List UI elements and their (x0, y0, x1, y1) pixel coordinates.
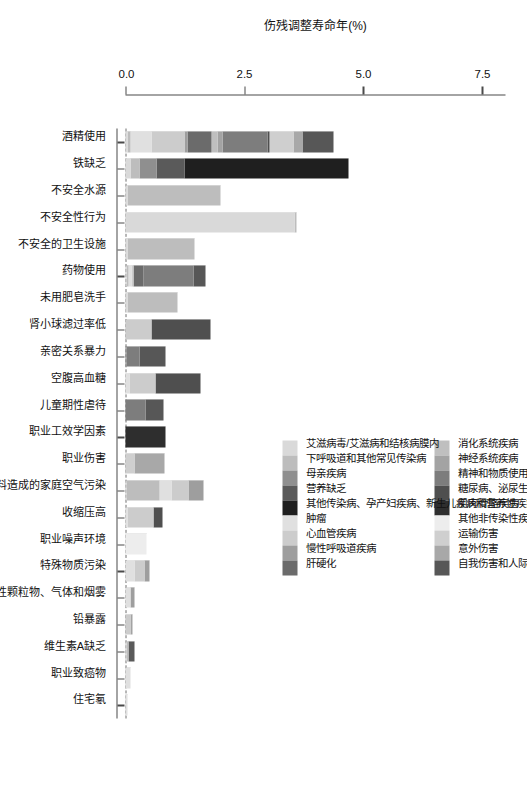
stacked-bar[interactable] (125, 238, 194, 258)
bar-segment[interactable] (125, 131, 127, 151)
bar-segment[interactable] (130, 131, 151, 151)
bar-segment[interactable] (125, 185, 127, 205)
stacked-bar[interactable] (125, 587, 135, 607)
bar-segment[interactable] (144, 560, 149, 580)
bar-segment[interactable] (125, 212, 294, 232)
legend-item[interactable]: 肝硬化 (282, 560, 297, 575)
stacked-bar[interactable] (125, 694, 127, 714)
stacked-bar[interactable] (125, 480, 203, 500)
bar-segment[interactable] (151, 131, 184, 151)
legend-item[interactable]: 母亲疾病 (282, 470, 297, 485)
legend-item[interactable]: 心血管疾病 (282, 530, 297, 545)
bar-segment[interactable] (269, 131, 293, 151)
legend-item[interactable]: 其他传染病、孕产妇疾病、新生儿疾病和营养性疾病 (282, 500, 297, 515)
stacked-bar[interactable] (125, 185, 220, 205)
bar-segment[interactable] (129, 373, 155, 393)
bar-segment[interactable] (125, 265, 126, 285)
bar-segment[interactable] (127, 238, 194, 258)
bar-segment[interactable] (159, 480, 171, 500)
bar-group[interactable]: 职业致癌物 (125, 664, 505, 691)
legend-item[interactable]: 精神和物质使用障碍 (434, 470, 449, 485)
bar-segment[interactable] (135, 453, 164, 473)
legend-item[interactable]: 意外伤害 (434, 545, 449, 560)
bar-segment[interactable] (125, 158, 130, 178)
stacked-bar[interactable] (125, 373, 200, 393)
stacked-bar[interactable] (125, 641, 134, 661)
bar-group[interactable]: 不安全的卫生设施 (125, 235, 505, 262)
stacked-bar[interactable] (125, 265, 205, 285)
bar-segment[interactable] (125, 426, 165, 446)
legend-item[interactable]: 神经系统疾病 (434, 455, 449, 470)
legend-item[interactable]: 肿瘤 (282, 515, 297, 530)
bar-segment[interactable] (155, 373, 200, 393)
bar-segment[interactable] (125, 533, 146, 553)
bar-segment[interactable] (128, 641, 134, 661)
bar-segment[interactable] (125, 319, 151, 339)
legend-item[interactable]: 运输伤害 (434, 530, 449, 545)
bar-segment[interactable] (125, 587, 130, 607)
stacked-bar[interactable] (125, 131, 333, 151)
bar-segment[interactable] (184, 158, 348, 178)
stacked-bar[interactable] (125, 507, 162, 527)
bar-segment[interactable] (144, 265, 194, 285)
legend-item[interactable]: 营养缺乏 (282, 485, 297, 500)
bar-segment[interactable] (127, 507, 153, 527)
bar-segment[interactable] (188, 480, 203, 500)
bar-segment[interactable] (130, 587, 135, 607)
bar-group[interactable]: 不安全水源 (125, 182, 505, 209)
bar-group[interactable]: 酒精使用 (125, 128, 505, 155)
bar-segment[interactable] (302, 131, 333, 151)
bar-segment[interactable] (125, 399, 145, 419)
bar-segment[interactable] (125, 480, 126, 500)
legend-item[interactable]: 其他非传染性疾病 (434, 515, 449, 530)
stacked-bar[interactable] (125, 292, 177, 312)
bar-group[interactable]: 维生素A缺乏 (125, 637, 505, 664)
bar-segment[interactable] (125, 641, 126, 661)
stacked-bar[interactable] (125, 158, 348, 178)
bar-group[interactable]: 铅暴露 (125, 611, 505, 638)
stacked-bar[interactable] (125, 346, 165, 366)
bar-group[interactable]: 亲密关系暴力 (125, 343, 505, 370)
bar-segment[interactable] (127, 185, 220, 205)
stacked-bar[interactable] (125, 560, 149, 580)
bar-segment[interactable] (125, 453, 135, 473)
bar-segment[interactable] (125, 346, 126, 366)
bar-group[interactable]: 住宅氡 (125, 691, 505, 718)
bar-segment[interactable] (293, 131, 302, 151)
bar-segment[interactable] (156, 158, 185, 178)
bar-group[interactable]: 儿童期性虐待 (125, 396, 505, 423)
bar-segment[interactable] (127, 292, 177, 312)
legend-item[interactable]: 艾滋病毒/艾滋病和结核病膜内 (282, 440, 297, 455)
bar-segment[interactable] (154, 507, 163, 527)
bar-segment[interactable] (126, 346, 139, 366)
bar-segment[interactable] (193, 265, 205, 285)
bar-segment[interactable] (125, 560, 134, 580)
bar-group[interactable]: 未用肥皂洗手 (125, 289, 505, 316)
bar-group[interactable]: 肾小球滤过率低 (125, 316, 505, 343)
bar-segment[interactable] (125, 507, 127, 527)
stacked-bar[interactable] (125, 614, 132, 634)
legend-item[interactable]: 慢性呼吸道疾病 (282, 545, 297, 560)
stacked-bar[interactable] (125, 319, 211, 339)
bar-group[interactable]: 不安全性行为 (125, 208, 505, 235)
bar-segment[interactable] (133, 265, 143, 285)
legend-item[interactable]: 自我伤害和人际暴力 (434, 560, 449, 575)
stacked-bar[interactable] (125, 533, 146, 553)
bar-segment[interactable] (130, 158, 140, 178)
bar-segment[interactable] (187, 131, 212, 151)
bar-segment[interactable] (125, 238, 127, 258)
bar-group[interactable]: 药物使用 (125, 262, 505, 289)
bar-segment[interactable] (126, 480, 159, 500)
bar-segment[interactable] (145, 399, 163, 419)
legend-item[interactable]: 下呼吸道和其他常见传染病 (282, 455, 297, 470)
bar-segment[interactable] (151, 319, 210, 339)
bar-segment[interactable] (125, 292, 127, 312)
bar-segment[interactable] (139, 346, 165, 366)
bar-segment[interactable] (139, 158, 156, 178)
bar-group[interactable]: 空腹高血糖 (125, 369, 505, 396)
bar-segment[interactable] (125, 667, 130, 687)
bar-segment[interactable] (217, 131, 222, 151)
bar-segment[interactable] (125, 614, 130, 634)
stacked-bar[interactable] (125, 212, 296, 232)
bar-group[interactable]: 职业性蹊响职业性颗粒物、气体和烟雾 (125, 584, 505, 611)
